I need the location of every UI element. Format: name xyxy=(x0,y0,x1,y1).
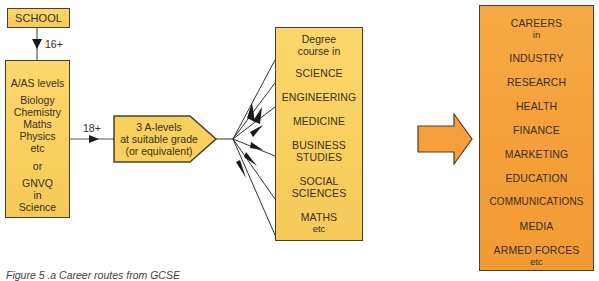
gnvq-science-label: Science xyxy=(6,201,69,213)
careers-etc: etc xyxy=(480,256,593,268)
degree-heading-2: course in xyxy=(276,45,362,57)
subject-maths: Maths xyxy=(6,118,69,130)
course-business-line-2: STUDIES xyxy=(276,151,362,163)
requirement-text: 3 A-levels at suitable grade (or equival… xyxy=(114,121,204,157)
careers-box: CAREERS in INDUSTRY RESEARCH HEALTH FINA… xyxy=(479,5,594,271)
career-industry: INDUSTRY xyxy=(480,52,593,64)
fan-arrowheads xyxy=(236,103,263,178)
gnvq-label: GNVQ xyxy=(6,177,69,189)
course-social-line-1: SOCIAL xyxy=(276,175,362,187)
subject-etc: etc xyxy=(6,142,69,154)
course-social-line-2: SCIENCES xyxy=(276,187,362,199)
degree-box: Degree course in SCIENCE ENGINEERING MED… xyxy=(275,27,363,241)
big-arrow-icon xyxy=(418,114,472,164)
course-science: SCIENCE xyxy=(276,67,362,79)
career-education: EDUCATION xyxy=(480,172,593,184)
course-engineering: ENGINEERING xyxy=(276,91,362,103)
arrowhead-down-icon xyxy=(32,39,42,49)
alevels-box: A/AS levels Biology Chemistry Maths Phys… xyxy=(5,60,70,218)
degree-heading-1: Degree xyxy=(276,33,362,45)
subject-biology: Biology xyxy=(6,94,69,106)
requirement-line-1: 3 A-levels xyxy=(114,121,204,133)
figure-caption: Figure 5 .a Career routes from GCSE xyxy=(6,269,180,281)
course-medicine: MEDICINE xyxy=(276,115,362,127)
career-finance: FINANCE xyxy=(480,124,593,136)
course-etc: etc xyxy=(276,223,362,235)
course-maths: MATHS xyxy=(276,211,362,223)
career-communications: COMMUNICATIONS xyxy=(480,196,593,208)
careers-heading: CAREERS xyxy=(480,17,593,29)
school-label: SCHOOL xyxy=(8,12,69,24)
subject-chemistry: Chemistry xyxy=(6,106,69,118)
careers-in-label: in xyxy=(480,29,593,41)
school-box: SCHOOL xyxy=(7,8,70,28)
course-business-line-1: BUSINESS xyxy=(276,139,362,151)
career-marketing: MARKETING xyxy=(480,148,593,160)
age-16-label: 16+ xyxy=(45,38,63,50)
career-media: MEDIA xyxy=(480,220,593,232)
gnvq-in-label: in xyxy=(6,189,69,201)
arrowhead-right-icon xyxy=(89,135,99,143)
career-research: RESEARCH xyxy=(480,76,593,88)
alevels-heading: A/AS levels xyxy=(6,77,69,89)
subject-physics: Physics xyxy=(6,130,69,142)
career-health: HEALTH xyxy=(480,100,593,112)
or-label: or xyxy=(6,160,69,172)
requirement-line-2: at suitable grade xyxy=(114,133,204,145)
age-18-label: 18+ xyxy=(83,122,101,134)
career-armed-forces: ARMED FORCES xyxy=(480,244,593,256)
requirement-line-3: (or equivalent) xyxy=(114,145,204,157)
